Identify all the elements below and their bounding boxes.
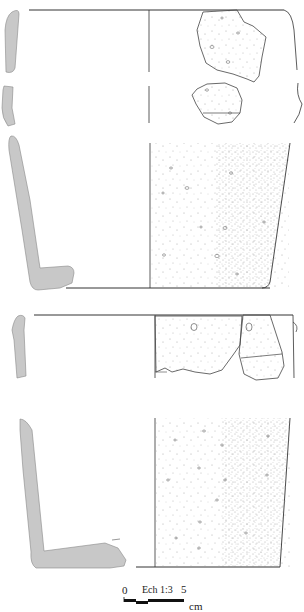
outer-wall [293, 315, 294, 378]
sherd-4 [239, 315, 284, 380]
outer-wall [284, 10, 297, 70]
sherd-1 [197, 10, 266, 82]
outer-wall-break [294, 83, 302, 123]
vessel-4 [20, 418, 290, 568]
scale-title: Ech 1:3 [142, 584, 173, 595]
scale-end-label: 5 [181, 583, 187, 595]
profile-section-4 [20, 419, 126, 568]
vessel-2 [9, 136, 290, 290]
scale-bar [124, 597, 184, 604]
profile-section-1a [5, 10, 19, 72]
profile-section-2 [9, 136, 74, 290]
profile-section-3 [12, 315, 26, 378]
scale-unit: cm [189, 600, 202, 612]
sherd-2 [192, 83, 242, 124]
sherd-3 [155, 316, 242, 374]
profile-section-1b [2, 86, 15, 126]
vessel-3 [12, 315, 297, 380]
vessel-1 [2, 10, 302, 126]
scale-start-label: 0 [122, 584, 128, 596]
